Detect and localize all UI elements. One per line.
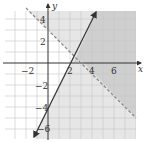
y-tick-label: −6	[37, 124, 51, 134]
x-tick-label: 6	[111, 66, 117, 76]
inequality-graph: x y −2 2 4 6 4 2 −2 −4 −6	[0, 0, 146, 142]
x-tick-label: 2	[67, 66, 73, 76]
y-tick-label: 2	[40, 37, 46, 47]
y-axis-label: y	[51, 1, 58, 11]
x-axis-label: x	[138, 64, 143, 74]
y-tick-label: −4	[35, 103, 49, 113]
y-tick-label: −2	[35, 81, 48, 91]
x-tick-label: −2	[21, 66, 34, 76]
x-tick-label: 4	[89, 66, 95, 76]
y-tick-label: 4	[40, 15, 46, 25]
